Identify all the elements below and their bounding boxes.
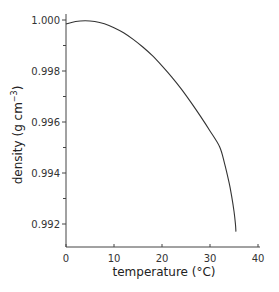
y-axis-title-close: )	[11, 86, 25, 91]
y-tick-label: 1.000	[31, 15, 60, 26]
y-axis-title: density (g cm−3)	[10, 86, 25, 185]
y-tick-label: 0.996	[31, 117, 60, 128]
y-axis-title-sup: −3	[10, 90, 19, 102]
x-axis: 010203040	[63, 244, 265, 264]
plot-area	[66, 21, 236, 232]
x-axis-title: temperature (°C)	[113, 265, 216, 279]
y-axis: 0.9920.9940.9960.9981.000	[31, 14, 66, 247]
x-tick-label: 30	[204, 253, 217, 264]
x-tick-label: 0	[63, 253, 69, 264]
density-curve	[66, 21, 236, 232]
y-axis-title-main: density (g cm	[11, 102, 25, 184]
y-tick-label: 0.994	[31, 168, 60, 179]
x-tick-label: 20	[156, 253, 169, 264]
x-tick-label: 40	[252, 253, 265, 264]
y-tick-label: 0.998	[31, 66, 60, 77]
density-chart: 0.9920.9940.9960.9981.000 010203040 temp…	[0, 0, 279, 292]
y-tick-label: 0.992	[31, 219, 60, 230]
x-tick-label: 10	[108, 253, 121, 264]
